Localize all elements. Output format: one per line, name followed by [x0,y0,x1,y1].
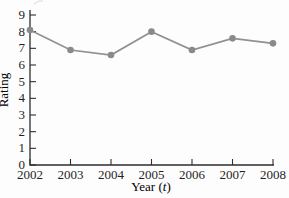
x-axis-label: Year (t) [131,179,171,194]
figure-root: 01234567892002200320042005200620072008 R… [0,0,289,198]
y-tick-label-5: 5 [19,74,26,89]
data-point-2007 [229,35,236,42]
data-point-2004 [108,52,115,59]
rating-line-chart: 01234567892002200320042005200620072008 R… [0,0,289,198]
x-tick-label-2002: 2002 [17,167,43,182]
y-tick-label-2: 2 [19,124,26,139]
y-tick-label-1: 1 [19,140,26,155]
x-axis-label-pre: Year ( [131,179,163,194]
data-point-2005 [148,28,155,35]
data-point-2003 [67,47,74,54]
y-tick-label-7: 7 [19,40,26,55]
x-tick-label-2008: 2008 [260,167,286,182]
scan-artifact [34,1,43,4]
plot-layer: 01234567892002200320042005200620072008 [17,7,286,182]
x-axis-label-post: ) [166,179,170,194]
y-tick-label-6: 6 [19,57,26,72]
y-tick-label-4: 4 [19,90,26,105]
y-tick-label-9: 9 [19,7,26,22]
data-point-2008 [270,40,277,47]
data-point-2006 [189,47,196,54]
x-tick-label-2004: 2004 [98,167,125,182]
x-tick-label-2007: 2007 [220,167,247,182]
x-tick-label-2003: 2003 [58,167,84,182]
y-tick-label-3: 3 [19,107,26,122]
y-axis-label: Rating [0,72,11,107]
y-tick-label-8: 8 [19,24,26,39]
data-point-2002 [27,27,34,34]
x-tick-label-2006: 2006 [179,167,206,182]
